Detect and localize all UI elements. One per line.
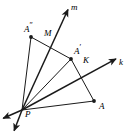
segment-A-double-prime-A-prime bbox=[31, 37, 71, 59]
point-label-K: K bbox=[83, 56, 89, 65]
point-label-M: M bbox=[44, 29, 52, 38]
point-label-A: A bbox=[99, 102, 105, 111]
point-dot-A-double-prime bbox=[29, 35, 33, 39]
segment-A-prime-A bbox=[71, 59, 94, 101]
geometry-figure: A″ M A′ K A P m k bbox=[0, 0, 129, 136]
segment-P-A-prime bbox=[22, 59, 71, 110]
ray-label-k: k bbox=[119, 58, 123, 67]
segment-P-A bbox=[22, 101, 94, 110]
point-dot-A bbox=[92, 99, 96, 103]
point-label-A-prime: A′ bbox=[74, 43, 81, 56]
point-dot-A-prime bbox=[69, 57, 73, 61]
ray-label-m: m bbox=[71, 3, 78, 12]
geometry-diagram bbox=[0, 0, 129, 136]
point-label-P: P bbox=[25, 110, 31, 119]
point-label-A-double-prime: A″ bbox=[24, 21, 33, 34]
